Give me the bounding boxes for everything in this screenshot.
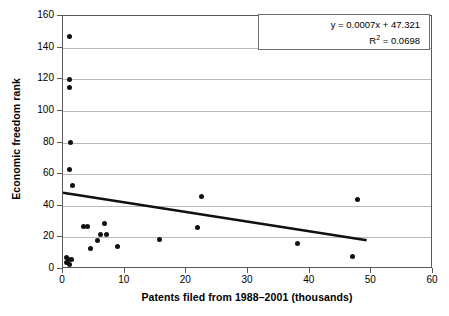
regression-annotation-box: y = 0.0007x + 47.321 R2 = 0.0698 [258, 14, 430, 50]
x-tick [309, 268, 310, 273]
data-point [95, 238, 100, 243]
data-point [67, 167, 72, 172]
x-tick [124, 268, 125, 273]
data-point [85, 224, 90, 229]
x-tick [185, 268, 186, 273]
y-tick [57, 236, 62, 237]
trend-line [63, 16, 431, 267]
r-squared-value: = 0.0698 [383, 35, 420, 46]
y-tick [57, 110, 62, 111]
data-point [67, 34, 72, 39]
y-tick-label: 140 [0, 42, 54, 52]
r-squared-line: R2 = 0.0698 [259, 31, 420, 47]
x-tick [62, 268, 63, 273]
y-tick-label: 60 [0, 168, 54, 178]
data-point [104, 232, 109, 237]
y-tick [57, 78, 62, 79]
scatter-chart: Economic freedom rank 020406080100120140… [0, 0, 449, 316]
y-tick-label: 80 [0, 137, 54, 147]
y-tick-label: 20 [0, 231, 54, 241]
x-tick [370, 268, 371, 273]
x-axis-title: Patents filed from 1988–2001 (thousands) [62, 291, 432, 303]
data-point [157, 237, 162, 242]
data-point [67, 77, 72, 82]
y-tick [57, 47, 62, 48]
data-point [88, 246, 93, 251]
r-squared-exponent: 2 [376, 34, 380, 41]
x-tick-label: 0 [47, 275, 77, 285]
data-point [295, 241, 300, 246]
y-tick-label: 160 [0, 10, 54, 20]
x-tick-label: 60 [417, 275, 447, 285]
y-tick-label: 120 [0, 73, 54, 83]
x-tick-label: 50 [355, 275, 385, 285]
y-tick-label: 0 [0, 263, 54, 273]
x-tick-label: 30 [232, 275, 262, 285]
y-tick [57, 205, 62, 206]
y-tick [57, 142, 62, 143]
x-tick [247, 268, 248, 273]
x-tick [432, 268, 433, 273]
y-tick-label: 40 [0, 200, 54, 210]
data-point [98, 232, 103, 237]
regression-equation: y = 0.0007x + 47.321 [259, 18, 420, 31]
x-axis-labels: 0102030405060 [62, 268, 432, 290]
plot-area [62, 15, 432, 268]
x-tick-label: 10 [109, 275, 139, 285]
x-tick-label: 40 [294, 275, 324, 285]
x-tick-label: 20 [170, 275, 200, 285]
y-tick [57, 173, 62, 174]
data-point [67, 85, 72, 90]
data-point [68, 140, 73, 145]
y-tick-label: 100 [0, 105, 54, 115]
y-tick [57, 15, 62, 16]
